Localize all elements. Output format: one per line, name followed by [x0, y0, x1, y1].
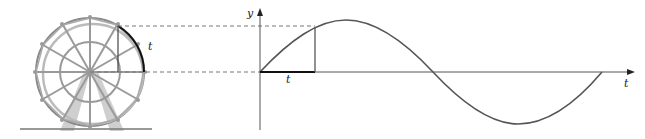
figure-canvas: t y t t	[0, 0, 645, 139]
base-label-t: t	[286, 73, 291, 86]
axes: y t	[246, 7, 635, 130]
ferris-wheel: t	[20, 15, 153, 131]
x-axis-label: t	[624, 77, 629, 90]
y-axis-arrow-icon	[257, 8, 263, 16]
x-axis-arrow-icon	[627, 69, 635, 75]
y-axis-label: y	[246, 7, 254, 20]
arc-label-t: t	[148, 40, 153, 53]
